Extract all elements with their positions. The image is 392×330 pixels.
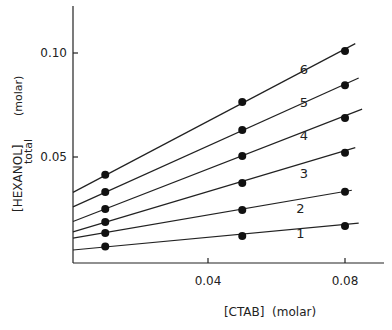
series-line-5 — [73, 78, 359, 207]
data-point — [341, 149, 349, 157]
line-label-1: 1 — [296, 226, 304, 241]
data-point — [101, 205, 109, 213]
series-line-4 — [73, 109, 362, 221]
y-axis-label: [HEXANOL] total (molar) — [11, 76, 35, 212]
data-points — [101, 47, 349, 251]
tick-labels: 0.040.080.050.10 — [40, 46, 358, 288]
data-point — [101, 171, 109, 179]
data-point — [341, 222, 349, 230]
line-label-3: 3 — [300, 166, 308, 181]
data-point — [238, 98, 246, 106]
line-label-2: 2 — [296, 201, 304, 216]
data-point — [238, 179, 246, 187]
axes — [73, 6, 384, 263]
series-line-1 — [73, 223, 359, 250]
series-lines — [73, 44, 362, 250]
line-label-4: 4 — [300, 128, 308, 143]
x-tick-label: 0.04 — [195, 274, 222, 288]
y-axis-label-subscript: total — [22, 139, 35, 164]
data-point — [101, 188, 109, 196]
x-axis-label: [CTAB] (molar) — [224, 305, 316, 319]
y-axis-label-unit: (molar) — [12, 76, 25, 116]
data-point — [101, 229, 109, 237]
data-point — [341, 47, 349, 55]
series-line-2 — [73, 190, 352, 238]
data-point — [341, 114, 349, 122]
chart: 0.040.080.050.10 123456 [CTAB] (molar) [… — [0, 0, 392, 330]
data-point — [341, 188, 349, 196]
data-point — [238, 206, 246, 214]
data-point — [238, 152, 246, 160]
data-point — [101, 218, 109, 226]
data-point — [341, 81, 349, 89]
series-line-3 — [73, 148, 355, 232]
x-tick-label: 0.08 — [332, 274, 359, 288]
data-point — [101, 242, 109, 250]
line-label-5: 5 — [300, 95, 308, 110]
y-tick-label: 0.05 — [40, 150, 67, 164]
data-point — [238, 232, 246, 240]
series-line-6 — [73, 44, 355, 193]
line-labels: 123456 — [296, 62, 308, 241]
line-label-6: 6 — [300, 62, 308, 77]
data-point — [238, 126, 246, 134]
y-tick-label: 0.10 — [40, 46, 67, 60]
